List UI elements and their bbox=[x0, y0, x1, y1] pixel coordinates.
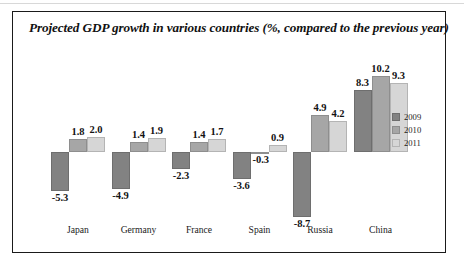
value-label-japan-2009: -5.3 bbox=[44, 192, 76, 203]
bar-china-2009 bbox=[354, 90, 372, 152]
page-top-rule bbox=[0, 3, 464, 4]
value-label-japan-2011: 2.0 bbox=[80, 124, 112, 135]
legend-swatch-2009 bbox=[392, 113, 400, 121]
bar-group: -2.31.41.7France bbox=[172, 46, 226, 242]
legend-label-2009: 2009 bbox=[404, 112, 421, 122]
bar-spain-2011 bbox=[269, 145, 287, 152]
bar-germany-2011 bbox=[148, 138, 166, 152]
value-label-germany-2011: 1.9 bbox=[141, 125, 173, 136]
chart-legend: 200920102011 bbox=[392, 111, 440, 150]
bar-japan-2010 bbox=[69, 139, 87, 152]
value-label-germany-2009: -4.9 bbox=[105, 190, 137, 201]
value-label-china-2011: 9.3 bbox=[383, 70, 415, 81]
bar-spain-2009 bbox=[233, 152, 251, 179]
bar-china-2010 bbox=[372, 76, 390, 152]
bar-russia-2011 bbox=[329, 121, 347, 152]
legend-item-2010[interactable]: 2010 bbox=[392, 124, 440, 136]
bar-group: -4.91.41.9Germany bbox=[112, 46, 166, 242]
chart-title: Projected GDP growth in various countrie… bbox=[29, 20, 431, 36]
value-label-spain-2010: -0.3 bbox=[253, 154, 270, 165]
bar-germany-2010 bbox=[130, 142, 148, 152]
legend-label-2011: 2011 bbox=[404, 138, 421, 148]
bar-group: -8.74.94.2Russia bbox=[293, 46, 347, 242]
value-label-russia-2011: 4.2 bbox=[322, 108, 354, 119]
bar-france-2009 bbox=[172, 152, 190, 169]
legend-swatch-2011 bbox=[392, 139, 400, 147]
bar-russia-2010 bbox=[311, 115, 329, 152]
bar-france-2010 bbox=[190, 142, 208, 152]
bar-japan-2009 bbox=[51, 152, 69, 191]
chart-figure-frame: Projected GDP growth in various countrie… bbox=[12, 11, 446, 253]
value-label-spain-2011: 0.9 bbox=[262, 132, 294, 143]
bar-russia-2009 bbox=[293, 152, 311, 217]
value-label-spain-2009: -3.6 bbox=[226, 180, 258, 191]
legend-item-2009[interactable]: 2009 bbox=[392, 111, 440, 123]
bar-group: -3.6-0.30.9Spain bbox=[233, 46, 287, 242]
value-label-france-2009: -2.3 bbox=[165, 170, 197, 181]
category-label-china: China bbox=[340, 224, 422, 235]
plot-area: -5.31.82.0Japan-4.91.41.9Germany-2.31.41… bbox=[27, 46, 393, 242]
bar-japan-2011 bbox=[87, 137, 105, 152]
bar-group: -5.31.82.0Japan bbox=[51, 46, 105, 242]
legend-label-2010: 2010 bbox=[404, 125, 421, 135]
legend-swatch-2010 bbox=[392, 126, 400, 134]
bar-france-2011 bbox=[208, 139, 226, 152]
value-label-france-2011: 1.7 bbox=[201, 126, 233, 137]
bar-germany-2009 bbox=[112, 152, 130, 189]
legend-item-2011[interactable]: 2011 bbox=[392, 137, 440, 149]
